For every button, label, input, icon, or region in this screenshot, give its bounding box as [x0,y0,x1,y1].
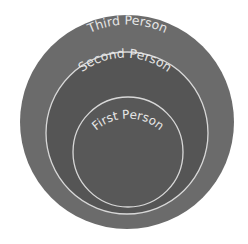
nested-circles-diagram: Third Person Second Person First Person [0,0,248,244]
